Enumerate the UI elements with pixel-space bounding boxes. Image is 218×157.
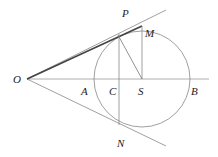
label-P: P <box>121 7 129 19</box>
label-S: S <box>138 85 144 97</box>
label-C: C <box>109 85 117 97</box>
tangent-line-lower <box>27 79 166 146</box>
label-B: B <box>191 85 198 97</box>
segment-PS <box>118 35 142 79</box>
segment-OM <box>27 26 142 79</box>
label-N: N <box>116 137 125 149</box>
label-O: O <box>13 73 21 85</box>
label-A: A <box>80 85 88 97</box>
geometry-diagram: P M O A C S B N <box>0 0 218 157</box>
label-M: M <box>144 27 155 39</box>
